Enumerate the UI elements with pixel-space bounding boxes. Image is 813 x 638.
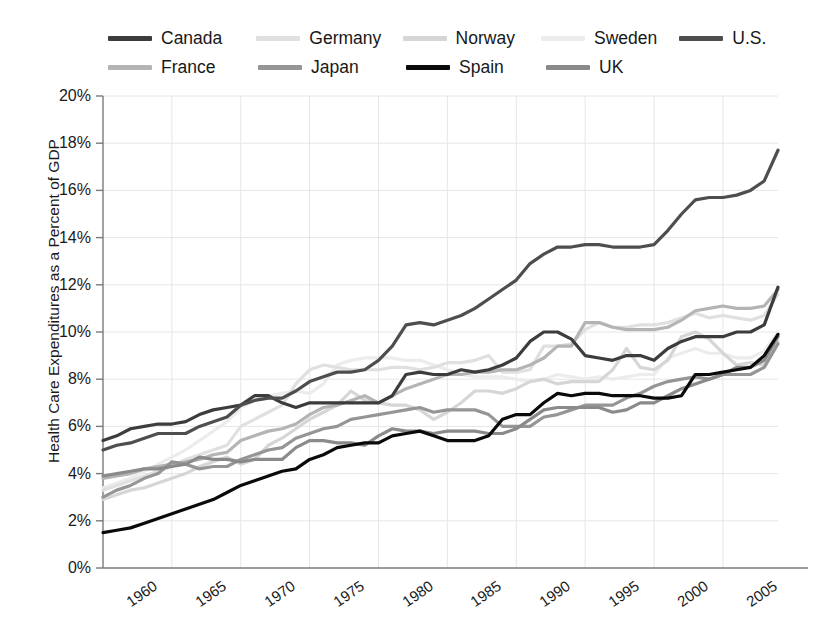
y-tick-label: 12% [0,276,91,294]
y-tick-label: 4% [0,465,91,483]
series-line-uk [103,337,778,476]
plot-area: 0%2%4%6%8%10%12%14%16%18%20% 19601965197… [0,0,813,638]
y-tick-label: 10% [0,323,91,341]
series-line-us [103,150,778,450]
y-tick-label: 18% [0,134,91,152]
y-tick-label: 16% [0,181,91,199]
line-chart-svg [0,0,813,638]
y-tick-label: 20% [0,87,91,105]
y-tick-label: 2% [0,512,91,530]
y-tick-label: 8% [0,370,91,388]
series-line-norway [103,332,778,500]
y-tick-label: 6% [0,417,91,435]
y-tick-label: 0% [0,559,91,577]
y-tick-label: 14% [0,229,91,247]
chart-figure: CanadaGermanyNorwaySwedenU.S.FranceJapan… [0,0,813,638]
